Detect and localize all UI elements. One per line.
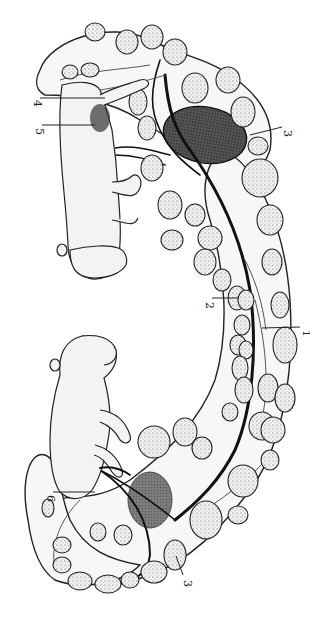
label-6-bottom: 6 [44, 495, 57, 502]
label-4-top: 4 [31, 100, 44, 107]
label-2-middle: 2 [203, 302, 216, 309]
upper-fetus-shadow [90, 104, 110, 132]
label-5-top: 5 [33, 128, 46, 135]
label-3-top: 3 [281, 130, 294, 137]
label-1-middle: 1 [300, 330, 310, 337]
anatomical-figure: 4 5 3 2 1 6 3 [0, 0, 310, 636]
lower-fetus [50, 336, 130, 499]
label-3-bottom: 3 [181, 580, 194, 587]
